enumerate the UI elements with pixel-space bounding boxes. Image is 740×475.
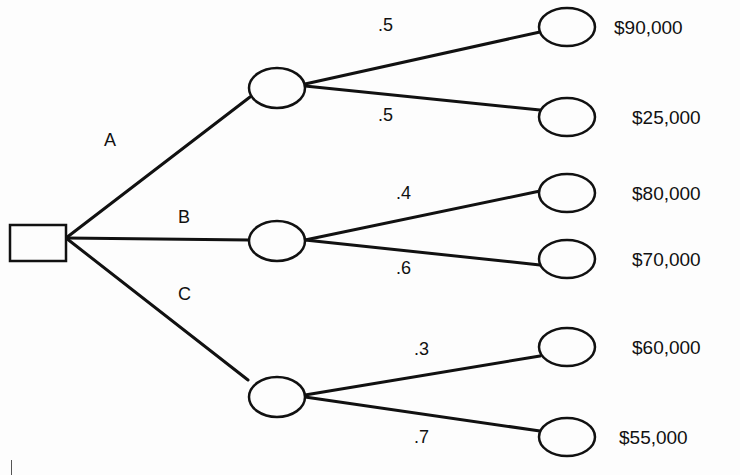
outcome-line-a2 [305,86,540,110]
outcome-line-b1 [305,191,540,240]
outcome-line-b2 [305,240,540,265]
terminal-node-b1 [539,174,595,212]
branch-label-a: A [104,131,116,149]
payoff-a1: $90,000 [614,18,683,37]
branch-line-a [66,97,250,238]
terminal-node-a2 [539,98,595,136]
tree-lines [0,0,740,475]
outcome-line-c1 [305,356,540,395]
branch-line-c [66,238,248,380]
outcome-line-c2 [305,397,540,431]
terminal-node-a1 [539,8,595,46]
payoff-b1: $80,000 [632,184,701,203]
branch-line-b [66,238,250,240]
branch-label-c: C [178,285,191,303]
chance-node-c [249,377,305,417]
scan-edge-mark [11,460,12,475]
probability-a2: .5 [378,106,393,124]
chance-node-b [249,221,305,261]
probability-b1: .4 [396,184,411,202]
probability-a1: .5 [378,16,393,34]
payoff-c2: $55,000 [619,428,688,447]
payoff-c1: $60,000 [632,338,701,357]
decision-tree-diagram: A B C .5 .5 .4 .6 .3 .7 $90,000 $25,000 … [0,0,740,475]
decision-node-square [10,225,66,261]
chance-node-a [249,68,305,108]
terminal-node-c1 [539,328,595,366]
probability-b2: .6 [396,259,411,277]
terminal-node-b2 [539,240,595,278]
probability-c2: .7 [414,428,429,446]
branch-label-b: B [178,208,190,226]
outcome-line-a1 [305,32,540,84]
probability-c1: .3 [414,340,429,358]
payoff-a2: $25,000 [632,108,701,127]
payoff-b2: $70,000 [632,250,701,269]
terminal-node-c2 [539,418,595,456]
